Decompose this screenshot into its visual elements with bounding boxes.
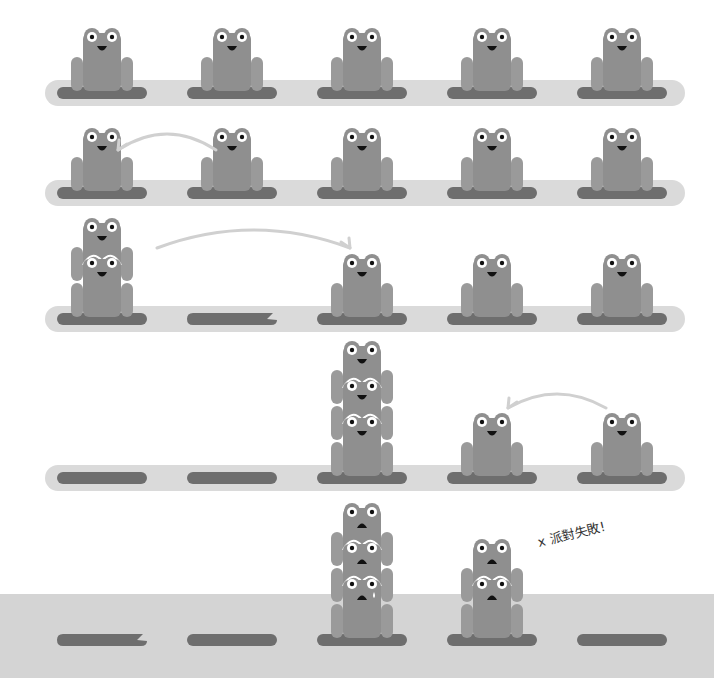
frog-body bbox=[473, 33, 511, 91]
frog-right-leg bbox=[381, 604, 393, 638]
frog-left-leg bbox=[461, 442, 473, 476]
frog-left-leg bbox=[461, 568, 473, 602]
frog-right-leg bbox=[381, 406, 393, 440]
frog-body bbox=[213, 133, 251, 191]
frog-right-leg bbox=[381, 532, 393, 566]
arrowhead-icon bbox=[118, 140, 127, 150]
frog bbox=[331, 254, 393, 317]
lily-pad bbox=[57, 472, 147, 484]
frog-left-leg bbox=[331, 406, 343, 440]
frog-body bbox=[473, 418, 511, 476]
frog-body bbox=[343, 418, 381, 476]
move-arrow bbox=[118, 134, 216, 150]
frog-left-leg bbox=[591, 283, 603, 317]
frog-left-leg bbox=[331, 283, 343, 317]
bitten-lily-pad bbox=[57, 634, 147, 646]
frog-left-leg bbox=[331, 57, 343, 91]
frog-left-leg bbox=[71, 57, 83, 91]
frog-left-leg bbox=[591, 442, 603, 476]
frog-right-leg bbox=[381, 370, 393, 404]
lily-pad bbox=[187, 634, 277, 646]
frog-left-leg bbox=[331, 604, 343, 638]
frog bbox=[461, 413, 523, 476]
frog-right-leg bbox=[381, 57, 393, 91]
frog-body bbox=[213, 33, 251, 91]
frog-right-leg bbox=[121, 157, 133, 191]
frog-left-leg bbox=[201, 157, 213, 191]
frog bbox=[591, 254, 653, 317]
frog-right-leg bbox=[511, 57, 523, 91]
frog-right-leg bbox=[121, 57, 133, 91]
frog-right-leg bbox=[511, 568, 523, 602]
frog-left-leg bbox=[591, 57, 603, 91]
frog bbox=[201, 128, 263, 191]
frog-left-leg bbox=[461, 57, 473, 91]
frog-right-leg bbox=[641, 283, 653, 317]
frog-right-leg bbox=[381, 568, 393, 602]
frog-body bbox=[83, 133, 121, 191]
frog-left-leg bbox=[71, 247, 83, 281]
frog-right-leg bbox=[251, 157, 263, 191]
frog-left-leg bbox=[331, 568, 343, 602]
frog-right-leg bbox=[641, 157, 653, 191]
frog-left-leg bbox=[461, 283, 473, 317]
frog-right-leg bbox=[641, 442, 653, 476]
frog-body bbox=[343, 259, 381, 317]
frog bbox=[201, 28, 263, 91]
frog bbox=[71, 128, 133, 191]
frog-body bbox=[83, 259, 121, 317]
frog-body bbox=[603, 33, 641, 91]
frog-left-leg bbox=[71, 157, 83, 191]
move-arrow bbox=[508, 394, 606, 408]
frog bbox=[591, 413, 653, 476]
frog-left-leg bbox=[201, 57, 213, 91]
row-4 bbox=[45, 341, 685, 491]
frog-body bbox=[83, 33, 121, 91]
frog-body bbox=[473, 133, 511, 191]
frog-right-leg bbox=[121, 283, 133, 317]
frog-body bbox=[603, 259, 641, 317]
frog-body bbox=[603, 418, 641, 476]
frog-body bbox=[603, 133, 641, 191]
lily-pad bbox=[187, 472, 277, 484]
frog-right-leg bbox=[121, 247, 133, 281]
frog-right-leg bbox=[381, 442, 393, 476]
row-1 bbox=[45, 28, 685, 106]
frog-left-leg bbox=[331, 442, 343, 476]
frog-left-leg bbox=[461, 157, 473, 191]
frog-right-leg bbox=[381, 283, 393, 317]
frog bbox=[591, 128, 653, 191]
frog-left-leg bbox=[591, 157, 603, 191]
frog-left-leg bbox=[331, 532, 343, 566]
frog bbox=[331, 128, 393, 191]
move-arrow bbox=[157, 230, 350, 248]
frog-body bbox=[343, 133, 381, 191]
frog-right-leg bbox=[511, 283, 523, 317]
frog bbox=[591, 28, 653, 91]
frog-right-leg bbox=[511, 157, 523, 191]
frog bbox=[461, 128, 523, 191]
frog-right-leg bbox=[251, 57, 263, 91]
frog-body bbox=[473, 259, 511, 317]
frog-party-diagram bbox=[0, 0, 714, 678]
frog bbox=[71, 28, 133, 91]
frog-left-leg bbox=[461, 604, 473, 638]
frog-right-leg bbox=[381, 157, 393, 191]
frog-body bbox=[473, 580, 511, 638]
lily-pad bbox=[577, 634, 667, 646]
frog-body bbox=[343, 33, 381, 91]
frog-right-leg bbox=[511, 442, 523, 476]
frog-right-leg bbox=[511, 604, 523, 638]
frog bbox=[331, 28, 393, 91]
arrowhead-icon bbox=[508, 398, 517, 408]
frog-left-leg bbox=[331, 157, 343, 191]
frog bbox=[461, 28, 523, 91]
frog-left-leg bbox=[331, 370, 343, 404]
frog-body bbox=[343, 580, 381, 638]
row-3 bbox=[45, 218, 685, 332]
frog-right-leg bbox=[641, 57, 653, 91]
frog bbox=[461, 254, 523, 317]
bitten-lily-pad bbox=[187, 313, 277, 325]
frog-left-leg bbox=[71, 283, 83, 317]
